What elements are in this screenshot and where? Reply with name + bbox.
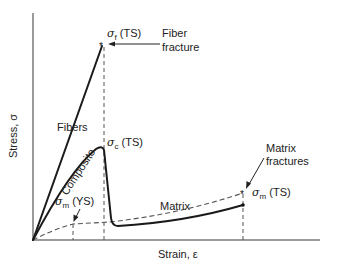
fiber-fracture-annotation: Fiber	[162, 27, 187, 39]
fiber-fracture-annotation-2: fracture	[162, 41, 199, 53]
fibers-label: Fibers	[57, 121, 88, 133]
sigma-m-ts-label: σm (TS)	[252, 186, 291, 201]
fiber-fracture-marker: *	[99, 41, 103, 52]
sigma-c-ts-label: σc (TS)	[107, 136, 143, 151]
matrix-fracture-marker: *	[240, 189, 244, 200]
stress-strain-diagram: Stress, σ Strain, ε * * σf (TS) Fiber fr…	[0, 0, 338, 271]
sigma-m-ys-label: σm (YS)	[55, 195, 94, 210]
x-axis-label: Strain, ε	[158, 248, 198, 260]
matrix-fractures-annotation: Matrix	[266, 142, 296, 154]
arrowhead-icon	[74, 215, 79, 223]
fibers-curve	[33, 46, 102, 240]
matrix-fractures-annotation-2: fractures	[266, 155, 309, 167]
composite-end-marker	[241, 203, 245, 207]
y-axis-label: Stress, σ	[7, 114, 19, 158]
arrowhead-icon	[108, 42, 115, 47]
sigma-f-ts-label: σf (TS)	[107, 27, 141, 42]
matrix-label: Matrix	[160, 200, 190, 212]
matrix-fractures-arrow	[248, 158, 264, 186]
